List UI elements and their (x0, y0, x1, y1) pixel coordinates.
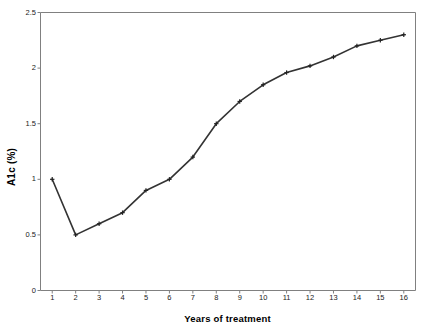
plot-area (0, 0, 432, 334)
chart-container: A1c (%) 00.511.522.5 1234567891011121314… (0, 0, 432, 334)
x-axis-title: Years of treatment (40, 313, 415, 324)
data-markers (50, 33, 406, 238)
data-line (52, 35, 404, 235)
axis-frame (41, 13, 416, 291)
